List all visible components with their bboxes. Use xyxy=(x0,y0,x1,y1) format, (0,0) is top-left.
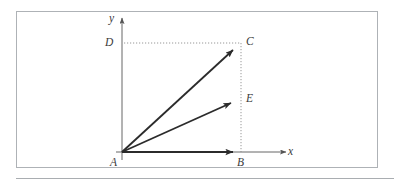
vector-diagram-canvas xyxy=(0,0,394,186)
point-label-c: C xyxy=(246,36,254,48)
x-axis-label: x xyxy=(288,146,293,158)
y-axis-label: y xyxy=(109,13,114,25)
point-label-d: D xyxy=(105,37,114,49)
vector-a-to-e xyxy=(122,103,231,152)
bottom-divider-rule xyxy=(16,178,394,179)
point-label-b: B xyxy=(237,157,244,169)
point-label-a: A xyxy=(110,157,117,169)
figure-screenshot: A B C D E x y xyxy=(0,0,394,186)
point-label-e: E xyxy=(246,93,253,105)
vector-a-to-c xyxy=(122,50,233,152)
